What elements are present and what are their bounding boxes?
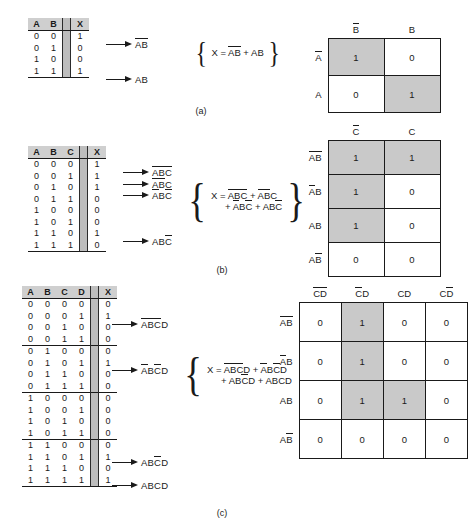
cell-output: 0 bbox=[99, 393, 118, 405]
kmap-cell: 0 bbox=[425, 420, 467, 459]
cell-input: 1 bbox=[28, 240, 45, 252]
arrow-icon bbox=[106, 41, 132, 48]
kmap-column-header: B bbox=[384, 20, 440, 39]
cell-output: 1 bbox=[71, 31, 90, 43]
cell-input: 1 bbox=[45, 228, 62, 240]
table-row: 01000 bbox=[22, 346, 117, 358]
kmap-row-header: A bbox=[300, 76, 328, 113]
kmap-cell: 1 bbox=[383, 381, 425, 420]
kmap-row-header: AB bbox=[270, 420, 299, 459]
cell-output: 0 bbox=[71, 54, 90, 66]
cell-input: 0 bbox=[28, 171, 45, 183]
literal-c-bar: C bbox=[165, 189, 172, 201]
kmap-corner bbox=[300, 122, 328, 141]
column-header: A bbox=[22, 286, 39, 299]
kmap-cell: 0 bbox=[383, 303, 425, 342]
karnaugh-map-c-table: CDCDCDCDAB0100AB0100AB0110AB0000 bbox=[270, 284, 468, 459]
cell-output: 1 bbox=[88, 159, 107, 171]
cell-input: 0 bbox=[56, 393, 73, 405]
cell-input: 1 bbox=[56, 334, 73, 346]
cell-input: 1 bbox=[56, 369, 73, 381]
truth-table-a: ABX001010100111 bbox=[28, 18, 89, 78]
literal-d-bar: D bbox=[446, 287, 453, 299]
cell-output: 0 bbox=[99, 416, 118, 428]
cell-input: 1 bbox=[39, 475, 56, 487]
kmap-column-header: B bbox=[328, 20, 384, 39]
literal-b: B bbox=[315, 186, 321, 197]
equation-term: AB bbox=[251, 47, 264, 58]
kmap-header-row: CC bbox=[300, 122, 440, 141]
kmap-cell: 1 bbox=[384, 76, 440, 113]
kmap-column-header: C bbox=[384, 122, 440, 141]
column-header: A bbox=[28, 146, 45, 159]
table-row: 00011 bbox=[22, 311, 117, 323]
cell-input: 0 bbox=[22, 322, 39, 334]
literal-b: B bbox=[315, 220, 321, 231]
kmap-row-header: AB bbox=[270, 381, 299, 420]
kmap-cell: 0 bbox=[328, 76, 384, 113]
literal-d: D bbox=[248, 375, 255, 386]
literal-a-bar: A bbox=[258, 189, 264, 201]
kmap-cell: 0 bbox=[383, 342, 425, 381]
table-row: 010 bbox=[28, 43, 89, 55]
cell-output: 0 bbox=[99, 299, 118, 311]
column-header: B bbox=[39, 286, 56, 299]
table-divider bbox=[80, 217, 88, 229]
truth-table-b: ABCX00010011010101101000101011011110 bbox=[28, 146, 106, 252]
cell-input: 1 bbox=[73, 334, 91, 346]
literal-d: D bbox=[161, 480, 168, 491]
cell-input: 0 bbox=[45, 31, 63, 43]
literal-b: B bbox=[409, 24, 415, 35]
kmap-column-header: CD bbox=[425, 284, 467, 303]
cell-input: 0 bbox=[45, 205, 62, 217]
cell-input: 0 bbox=[39, 299, 56, 311]
table-divider bbox=[91, 381, 99, 393]
cell-input: 1 bbox=[62, 240, 80, 252]
cell-input: 0 bbox=[39, 334, 56, 346]
kmap-cell: 0 bbox=[384, 175, 440, 209]
table-divider bbox=[63, 54, 71, 66]
cell-input: 0 bbox=[62, 205, 80, 217]
kmap-header-row: CDCDCDCD bbox=[270, 284, 468, 303]
table-row: 00100 bbox=[22, 322, 117, 334]
cell-input: 1 bbox=[39, 463, 56, 475]
product-term-label: ABCD bbox=[141, 480, 168, 491]
table-divider bbox=[91, 369, 99, 381]
table-divider bbox=[80, 159, 88, 171]
table-divider bbox=[80, 182, 88, 194]
cell-input: 0 bbox=[39, 322, 56, 334]
cell-output: 0 bbox=[99, 440, 118, 452]
cell-input: 1 bbox=[73, 311, 91, 323]
table-row: 001 bbox=[28, 31, 89, 43]
column-header-output: X bbox=[99, 286, 118, 299]
cell-input: 0 bbox=[56, 452, 73, 464]
kmap-cell: 0 bbox=[299, 303, 341, 342]
cell-output: 1 bbox=[88, 182, 107, 194]
kmap-cell: 0 bbox=[425, 342, 467, 381]
kmap-column-header: CD bbox=[383, 284, 425, 303]
arrow-icon bbox=[112, 482, 138, 489]
cell-output: 0 bbox=[88, 205, 107, 217]
arrow-icon bbox=[123, 181, 149, 188]
cell-input: 1 bbox=[22, 440, 39, 452]
cell-input: 1 bbox=[62, 194, 80, 206]
cell-input: 0 bbox=[39, 416, 56, 428]
kmap-cell: 0 bbox=[384, 209, 440, 243]
table-row: 01100 bbox=[22, 369, 117, 381]
column-header: B bbox=[45, 18, 63, 31]
karnaugh-map-b-table: CCAB11AB10AB10AB00 bbox=[300, 122, 441, 277]
left-brace-icon: { bbox=[188, 183, 206, 220]
equation-wrap bbox=[207, 375, 221, 386]
literal-c-bar: C bbox=[353, 125, 360, 137]
table-divider bbox=[63, 31, 71, 43]
table-divider bbox=[91, 334, 99, 346]
table-row: 10100 bbox=[22, 416, 117, 428]
cell-input: 1 bbox=[45, 182, 62, 194]
kmap-cell: 1 bbox=[341, 342, 383, 381]
cell-input: 0 bbox=[56, 311, 73, 323]
cell-input: 1 bbox=[28, 54, 45, 66]
cell-output: 0 bbox=[88, 217, 107, 229]
karnaugh-map-a-table: BBA10A01 bbox=[300, 20, 441, 113]
panel-a-truth-table-group: ABX001010100111 bbox=[28, 18, 89, 78]
truth-table-c-body: ABCDX00000000110010000110010000101101100… bbox=[22, 286, 117, 487]
